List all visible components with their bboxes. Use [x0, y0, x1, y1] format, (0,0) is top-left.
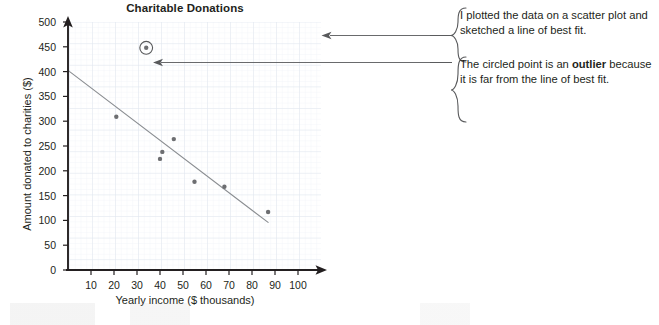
y-axis-label: Amount donated to charities ($) [21, 39, 33, 269]
callout-note-1: I plotted the data on a scatter plot and… [460, 8, 656, 37]
data-point[interactable] [160, 150, 164, 154]
annotation-callouts: I plotted the data on a scatter plot and… [430, 0, 659, 130]
page-bleed-through-artifact [0, 303, 659, 325]
data-point[interactable] [114, 115, 118, 119]
y-tick-label-500: 500 [26, 16, 56, 28]
major-gridlines [68, 22, 321, 270]
x-tick-label-100: 100 [285, 279, 311, 291]
worksheet-page: Charitable Donations [0, 0, 659, 325]
data-point[interactable] [266, 210, 270, 214]
outlier-data-point [144, 46, 148, 50]
data-point[interactable] [222, 185, 226, 189]
callout-note-2-text-before: The circled point is an [460, 58, 572, 70]
callout-note-2: The circled point is an outlier because … [460, 57, 656, 86]
callout-note-2-keyword: outlier [572, 58, 606, 70]
data-point[interactable] [192, 180, 196, 184]
data-point[interactable] [158, 157, 162, 161]
scatter-plot-figure: Charitable Donations [0, 0, 340, 325]
data-point[interactable] [172, 137, 176, 141]
